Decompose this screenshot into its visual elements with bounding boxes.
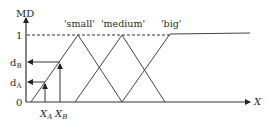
one-label: 1	[16, 30, 22, 41]
x-a-label: XA	[39, 108, 52, 121]
membership-function-diagram: MD 1 0 dB dA XA XB X 'small' 'medium' 'b…	[0, 0, 268, 125]
medium-set-label: 'medium'	[101, 18, 145, 29]
big-set-shoulder	[122, 33, 250, 102]
y-axis-label: MD	[16, 8, 34, 19]
d-a-label: dA	[10, 77, 22, 90]
d-b-label: dB	[10, 57, 22, 70]
x-b-label: XB	[54, 108, 67, 121]
x-axis-label: X	[253, 96, 262, 107]
medium-set-triangle	[75, 35, 165, 102]
big-set-label: 'big'	[161, 18, 181, 29]
origin-label: 0	[16, 97, 22, 108]
small-set-label: 'small'	[64, 18, 95, 29]
